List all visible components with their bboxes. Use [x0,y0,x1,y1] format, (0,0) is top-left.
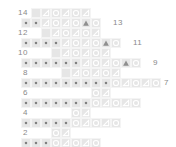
chart-cell-circle-icon [71,18,81,28]
chart-cell-triangle-icon [121,98,131,108]
chart-cell-triangle-icon [61,128,71,138]
chart-cell-circle-icon [61,28,71,38]
chart-cell-circle-icon [111,98,121,108]
chart-row-5: 5 [0,98,176,108]
chart-row-cells [21,38,121,48]
chart-row-1: 1 [0,138,176,147]
chart-cell-circle-icon [91,18,101,28]
chart-row-cells [21,18,101,28]
chart-cell-triangle-icon [81,38,91,48]
chart-cell-blank-icon [51,48,61,58]
chart-row-cells [91,88,111,98]
chart-cell-triangle-filled-icon [81,18,91,28]
chart-cell-circle-icon [71,8,81,18]
chart-cell-triangle-icon [81,138,91,147]
chart-cell-circle-icon [71,48,81,58]
chart-cell-circle-icon [71,118,81,128]
row-number-label-12: 12 [6,28,28,38]
chart-cell-triangle-icon [81,118,91,128]
chart-cell-dot-icon [41,138,51,147]
chart-cell-triangle-icon [91,68,101,78]
chart-cell-dot-icon [71,98,81,108]
chart-row-cells [61,68,121,78]
chart-cell-circle-icon [81,68,91,78]
chart-cell-dot-icon [51,78,61,88]
chart-cell-dot-icon [71,78,81,88]
chart-cell-triangle-icon [71,68,81,78]
chart-cell-triangle-filled-icon [121,58,131,68]
chart-cell-triangle-icon [101,98,111,108]
chart-cell-triangle-icon [111,68,121,78]
chart-cell-dot-icon [51,58,61,68]
chart-row-cells [21,138,101,147]
chart-cell-dot-icon [31,18,41,28]
chart-cell-triangle-icon [61,8,71,18]
row-number-label-7: 7 [164,78,176,88]
chart-row-3: 3 [0,118,176,128]
chart-cell-dot-icon [21,38,31,48]
chart-cell-triangle-icon [71,28,81,38]
chart-cell-blank-icon [61,68,71,78]
chart-cell-circle-icon [71,138,81,147]
knitting-stitch-chart: 1413121110987654321 [0,0,176,147]
chart-cell-circle-icon [131,98,141,108]
chart-cell-dot-icon [31,138,41,147]
chart-cell-circle-icon [111,58,121,68]
chart-cell-dot-icon [41,118,51,128]
chart-cell-triangle-icon [101,58,111,68]
chart-cell-dot-icon [41,38,51,48]
chart-cell-circle-icon [71,38,81,48]
chart-cell-triangle-icon [81,108,91,118]
chart-row-cells [21,78,161,88]
chart-row-7: 7 [0,78,176,88]
chart-cell-circle-icon [101,68,111,78]
chart-cell-circle-icon [91,138,101,147]
chart-cell-circle-icon [111,78,121,88]
chart-cell-triangle-icon [81,58,91,68]
chart-row-cells [21,118,121,128]
chart-cell-triangle-icon [141,78,151,88]
chart-row-2: 2 [0,128,176,138]
chart-cell-circle-icon [91,88,101,98]
row-number-label-9: 9 [153,58,173,68]
row-number-label-2: 2 [6,128,28,138]
chart-cell-dot-icon [21,18,31,28]
chart-cell-dot-icon [81,98,91,108]
chart-cell-dot-icon [41,58,51,68]
chart-cell-blank-icon [31,8,41,18]
chart-row-cells [51,48,111,58]
row-number-label-14: 14 [6,8,28,18]
row-number-label-8: 8 [6,68,28,78]
chart-cell-dot-icon [21,118,31,128]
chart-cell-triangle-icon [61,18,71,28]
chart-row-cells [71,108,91,118]
chart-cell-circle-icon [91,98,101,108]
chart-row-cells [31,8,91,18]
chart-cell-dot-icon [41,98,51,108]
chart-cell-dot-icon [31,118,41,128]
chart-cell-dot-icon [61,118,71,128]
chart-cell-dot-icon [71,58,81,68]
row-number-label-6: 6 [6,88,28,98]
chart-cell-triangle-icon [81,48,91,58]
chart-cell-triangle-icon [101,118,111,128]
chart-cell-circle-icon [151,78,161,88]
chart-row-9: 9 [0,58,176,68]
chart-cell-triangle-icon [81,8,91,18]
chart-cell-dot-icon [21,58,31,68]
chart-cell-circle-icon [111,118,121,128]
chart-cell-dot-icon [31,98,41,108]
chart-cell-triangle-icon [121,78,131,88]
chart-cell-dot-icon [81,78,91,88]
chart-cell-dot-icon [91,78,101,88]
row-number-label-4: 4 [6,108,28,118]
chart-row-12: 12 [0,28,176,38]
chart-row-cells [41,28,101,38]
chart-row-8: 8 [0,68,176,78]
chart-cell-triangle-icon [91,28,101,38]
chart-cell-circle-icon [51,8,61,18]
row-number-label-11: 11 [133,38,155,48]
chart-row-11: 11 [0,38,176,48]
chart-cell-circle-icon [91,58,101,68]
chart-cell-dot-icon [51,98,61,108]
